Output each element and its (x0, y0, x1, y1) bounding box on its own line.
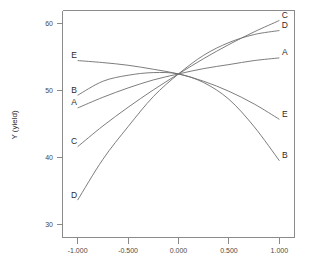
series-label-left-b: B (71, 85, 77, 95)
series-label-right-c: C (282, 10, 288, 20)
series-curve-e (78, 61, 280, 120)
series-curve-b (78, 72, 280, 160)
series-curve-d (78, 31, 280, 201)
x-axis-ticks: -1.000-0.5000.0000.5001.000 (68, 238, 289, 255)
x-tick-label: 1.000 (271, 247, 289, 254)
series-label-right-e: E (282, 109, 288, 119)
y-tick-label: 40 (45, 154, 53, 161)
y-tick-label: 50 (45, 87, 53, 94)
x-tick-label: 0.500 (220, 247, 238, 254)
series-label-left-d: D (71, 190, 77, 200)
series-label-left-c: C (71, 136, 77, 146)
series-label-left-e: E (71, 50, 77, 60)
y-axis-title: Y (yield) (10, 110, 19, 140)
y-axis-ticks: 30405060 (45, 20, 62, 227)
x-tick-label: 0.000 (170, 247, 188, 254)
series-curve-c (78, 21, 280, 147)
series-label-left-a: A (71, 97, 77, 107)
series-curve-a (78, 58, 280, 108)
x-tick-label: -1.000 (68, 247, 88, 254)
series-label-right-b: B (282, 150, 288, 160)
series-label-right-a: A (282, 47, 288, 57)
series-curves (78, 21, 280, 201)
x-tick-label: -0.500 (118, 247, 138, 254)
y-tick-label: 60 (45, 20, 53, 27)
series-label-right-d: D (282, 20, 288, 30)
plot-frame (63, 11, 295, 238)
y-tick-label: 30 (45, 221, 53, 228)
effect-plot: Y (yield) 30405060 -1.000-0.5000.0000.50… (0, 0, 311, 273)
chart-container: Y (yield) 30405060 -1.000-0.5000.0000.50… (0, 0, 311, 273)
